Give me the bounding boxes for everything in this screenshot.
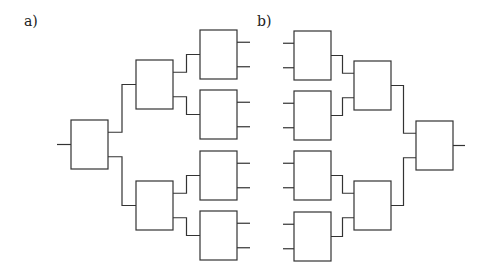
b-level1-box [294,151,331,200]
b-root-box [416,121,453,170]
b-level2-box [354,61,391,110]
b-connector [331,56,354,74]
b-level2-box [354,181,391,230]
a-connector [108,157,136,206]
a-connector [173,218,200,236]
a-connector [173,55,200,73]
a-level3-box [200,30,237,79]
a-level3-box [200,151,237,200]
b-connector [331,176,354,194]
a-connector [108,85,136,133]
b-connector [391,86,416,134]
a-level2-box [136,60,173,109]
a-root-box [71,120,108,169]
b-level1-box [294,31,331,80]
a-level2-box [136,181,173,230]
a-connector [173,97,200,115]
a-connector [173,176,200,194]
b-connector [331,98,354,116]
b-level1-box [294,212,331,261]
b-connector [391,158,416,206]
a-level3-box [200,211,237,260]
b-level1-box [294,91,331,140]
b-connector [331,218,354,237]
a-level3-box [200,90,237,139]
tree-diagram [0,0,482,273]
